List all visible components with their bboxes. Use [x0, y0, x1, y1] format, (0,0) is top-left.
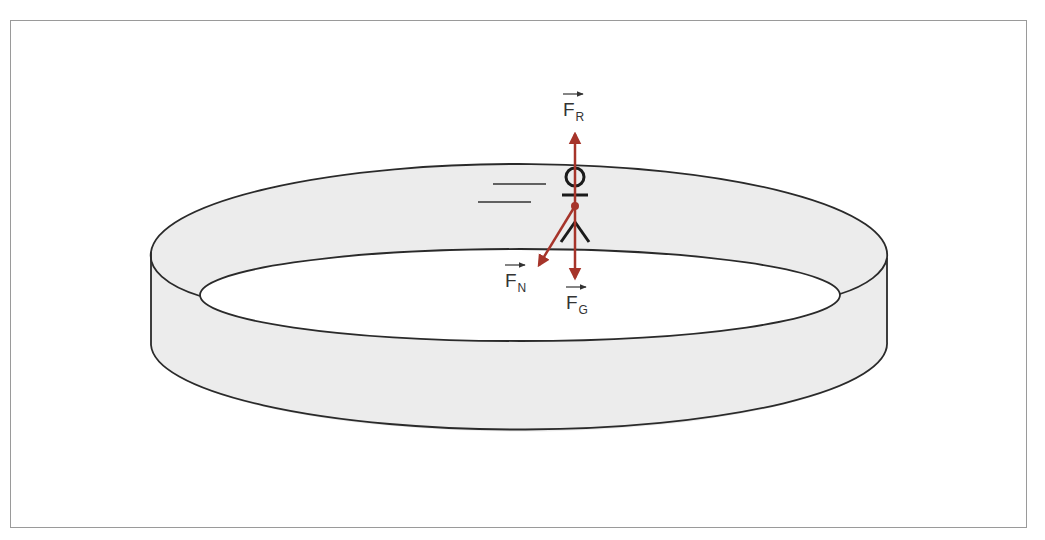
label-gravity-force: FG	[566, 293, 588, 312]
ring-wall	[151, 164, 888, 432]
label-resultant-force: FR	[563, 100, 584, 119]
center-of-mass-dot	[571, 202, 579, 210]
rotor-diagram	[0, 0, 1045, 540]
vector-arrow-icon	[505, 262, 527, 268]
vector-arrow-icon	[566, 284, 588, 290]
label-normal-force: FN	[505, 271, 526, 290]
vector-arrow-icon	[563, 91, 585, 97]
